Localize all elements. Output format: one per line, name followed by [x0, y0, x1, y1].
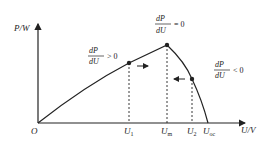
u1-point	[127, 61, 131, 65]
um-label: Um	[161, 126, 173, 137]
power-curve	[38, 45, 208, 123]
svg-text:dU: dU	[89, 57, 100, 66]
y-axis-label: P/W	[13, 23, 31, 33]
svg-text:dU: dU	[215, 71, 226, 80]
annotation-positive-slope: dP dU > 0	[88, 46, 118, 66]
pu-curve-diagram: P/W U/V O U1 Um U2 Uoc dP dU > 0 dP dU =…	[0, 0, 268, 146]
svg-text:dP: dP	[156, 14, 165, 23]
x-axis-label: U/V	[241, 125, 257, 135]
u2-label: U2	[187, 126, 197, 137]
u2-point	[190, 77, 194, 81]
svg-text:dP: dP	[89, 46, 98, 55]
uoc-label: Uoc	[203, 126, 216, 137]
svg-text:> 0: > 0	[107, 52, 118, 61]
svg-text:dU: dU	[156, 26, 167, 35]
svg-text:= 0: = 0	[174, 20, 185, 29]
svg-text:dP: dP	[215, 60, 224, 69]
annotation-negative-slope: dP dU < 0	[214, 60, 244, 80]
origin-label: O	[31, 126, 38, 136]
annotation-zero-slope: dP dU = 0	[155, 14, 185, 35]
um-peak-point	[165, 43, 169, 47]
svg-text:< 0: < 0	[233, 66, 244, 75]
u1-label: U1	[124, 126, 134, 137]
